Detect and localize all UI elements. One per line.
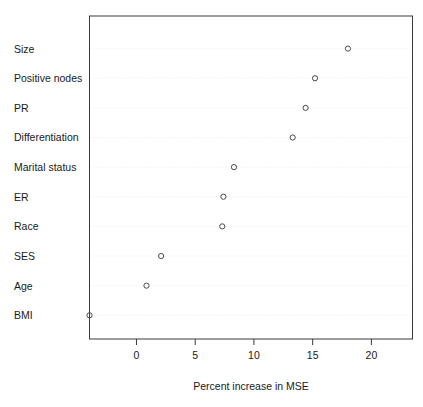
x-axis-title: Percent increase in MSE	[193, 380, 309, 392]
category-label-marital-status: Marital status	[14, 161, 76, 173]
x-tick-label-10: 10	[248, 349, 260, 361]
variable-importance-dotplot: 05101520 SizePositive nodesPRDifferentia…	[0, 0, 423, 407]
x-tick-label-0: 0	[134, 349, 140, 361]
x-tick-label-20: 20	[366, 349, 378, 361]
category-label-ses: SES	[14, 250, 35, 262]
category-label-differentiation: Differentiation	[14, 131, 79, 143]
plot-frame	[90, 16, 413, 339]
category-label-pr: PR	[14, 102, 29, 114]
category-label-er: ER	[14, 191, 29, 203]
category-label-size: Size	[14, 43, 35, 55]
category-label-age: Age	[14, 280, 33, 292]
chart-canvas: 05101520 SizePositive nodesPRDifferentia…	[0, 0, 423, 407]
x-axis-ticks-group	[136, 339, 371, 345]
data-points-group	[87, 46, 351, 318]
x-tick-label-15: 15	[307, 349, 319, 361]
category-labels-group: SizePositive nodesPRDifferentiationMarit…	[14, 43, 82, 322]
category-label-race: Race	[14, 220, 39, 232]
category-label-bmi: BMI	[14, 309, 33, 321]
x-tick-label-5: 5	[192, 349, 198, 361]
category-label-positive-nodes: Positive nodes	[14, 72, 82, 84]
gridlines-group	[91, 49, 412, 316]
x-axis-tick-labels-group: 05101520	[134, 349, 378, 361]
